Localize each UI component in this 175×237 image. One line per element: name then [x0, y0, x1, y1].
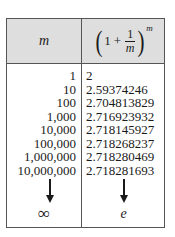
down-arrow-icon — [123, 179, 125, 197]
table-row: 10,000 2.718145927 — [7, 123, 164, 137]
limit-table: m ( 1 + 1 m ) m 1 2 10 2.59374246 100 2.… — [6, 18, 165, 228]
cell-value: 2.59374246 — [86, 83, 148, 97]
open-paren: ( — [96, 26, 103, 56]
header-expression: ( 1 + 1 m ) m — [82, 19, 165, 63]
cell-m: 1,000 — [47, 110, 76, 124]
table-row: 1 2 — [7, 69, 164, 83]
table-row: 100 2.704813829 — [7, 96, 164, 110]
cell-value: 2.718268237 — [86, 137, 154, 151]
down-arrow-icon — [49, 179, 51, 197]
close-paren: ) — [138, 26, 145, 56]
cell-value: 2.704813829 — [86, 96, 154, 110]
limit-e: e — [82, 205, 165, 222]
expr-one: 1 — [104, 33, 111, 49]
cell-value: 2.718281693 — [86, 164, 154, 178]
table-body: 1 2 10 2.59374246 100 2.704813829 1,000 … — [7, 69, 164, 177]
cell-m: 1,000,000 — [24, 150, 76, 164]
fraction: 1 m — [125, 28, 135, 55]
cell-m: 100 — [57, 96, 77, 110]
cell-value: 2 — [86, 69, 93, 83]
exponent: m — [146, 23, 153, 33]
cell-value: 2.718280469 — [86, 150, 154, 164]
table-row: 100,000 2.718268237 — [7, 137, 164, 151]
fraction-denominator: m — [126, 42, 135, 55]
table-row: 1,000,000 2.718280469 — [7, 150, 164, 164]
cell-m: 10,000 — [40, 123, 76, 137]
limit-infinity: ∞ — [7, 205, 81, 222]
cell-m: 10 — [63, 83, 76, 97]
table-row: 10 2.59374246 — [7, 83, 164, 97]
cell-m: 100,000 — [34, 137, 76, 151]
cell-m: 1 — [70, 69, 77, 83]
header-m: m — [7, 19, 81, 63]
table-header: m ( 1 + 1 m ) m — [7, 19, 164, 64]
table-row: 1,000 2.716923932 — [7, 110, 164, 124]
fraction-numerator: 1 — [125, 28, 135, 42]
cell-value: 2.716923932 — [86, 110, 154, 124]
cell-value: 2.718145927 — [86, 123, 154, 137]
cell-m: 10,000,000 — [18, 164, 77, 178]
table-row: 10,000,000 2.718281693 — [7, 164, 164, 178]
expr-plus: + — [114, 33, 121, 49]
